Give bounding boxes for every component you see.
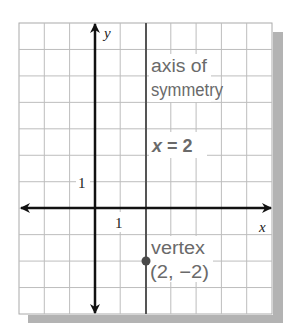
- coordinate-graph: y x 1 1 axis of symmetry x = 2 vertex (2…: [0, 0, 287, 325]
- y-axis-label: y: [102, 25, 111, 41]
- vertex-coordinates-label: (2, −2): [150, 262, 209, 282]
- x-axis-label: x: [258, 219, 266, 235]
- axis-of-symmetry-label-line1: axis of: [151, 56, 208, 76]
- vertex-label: vertex: [151, 238, 205, 258]
- y-tick-label: 1: [78, 175, 86, 191]
- x-tick-label: 1: [115, 215, 123, 231]
- axis-equation-label: x = 2: [151, 136, 193, 156]
- axis-of-symmetry-label-line2: symmetry: [151, 80, 223, 100]
- equation-value: = 2: [162, 136, 193, 156]
